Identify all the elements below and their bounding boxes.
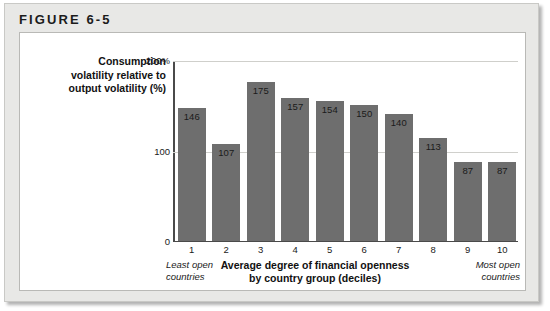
bar-series: 1461071751571541501401138787 <box>175 61 519 241</box>
annotation-right-line-1: Most open <box>440 259 520 271</box>
y-axis-tick-label: 200% <box>146 55 170 66</box>
annotation-left-line-2: countries <box>166 271 252 283</box>
bar-value-label: 140 <box>385 117 413 128</box>
bar-slot: 157 <box>281 60 309 241</box>
figure-frame: FIGURE 6-5 Consumption volatility relati… <box>4 3 539 302</box>
bar-slot: 175 <box>247 60 275 241</box>
chart-panel: Consumption volatility relative to outpu… <box>19 32 526 291</box>
bar[interactable] <box>178 108 206 240</box>
bar-value-label: 150 <box>350 108 378 119</box>
bar-value-label: 175 <box>247 85 275 96</box>
bar[interactable] <box>212 144 240 241</box>
bar-slot: 107 <box>212 60 240 241</box>
bar-slot: 87 <box>454 60 482 241</box>
annotation-most-open-countries: Most open countries <box>440 259 520 283</box>
bar-value-label: 87 <box>454 165 482 176</box>
bar-slot: 150 <box>350 60 378 241</box>
x-axis-line <box>173 241 518 243</box>
x-axis-tick-label: 4 <box>278 244 313 255</box>
x-axis-tick-label: 1 <box>175 244 210 255</box>
x-axis-tick-labels: 12345678910 <box>175 244 520 258</box>
bar[interactable] <box>247 82 275 240</box>
bar-value-label: 157 <box>281 101 309 112</box>
bar[interactable] <box>385 114 413 241</box>
annotation-right-line-2: countries <box>440 271 520 283</box>
bar-value-label: 113 <box>419 141 447 152</box>
plot-area: 1461071751571541501401138787 <box>173 61 518 242</box>
x-axis-tick-label: 3 <box>244 244 279 255</box>
bar[interactable] <box>281 98 309 240</box>
bar-value-label: 107 <box>212 147 240 158</box>
y-axis-tick-label: 0 <box>165 236 170 247</box>
x-axis-tick-label: 5 <box>313 244 348 255</box>
x-axis-tick-label: 6 <box>347 244 382 255</box>
bar-slot: 154 <box>316 60 344 241</box>
x-axis-tick-label: 8 <box>416 244 451 255</box>
bar-slot: 140 <box>385 60 413 241</box>
figure-header: FIGURE 6-5 <box>19 12 112 27</box>
y-axis-tick-labels: 200%1000 <box>128 61 170 242</box>
bar-value-label: 146 <box>178 111 206 122</box>
annotation-left-line-1: Least open <box>166 259 252 271</box>
bar-value-label: 87 <box>488 165 516 176</box>
bar-value-label: 154 <box>316 104 344 115</box>
bar-slot: 87 <box>488 60 516 241</box>
x-axis-tick-label: 2 <box>209 244 244 255</box>
y-axis-tick-label: 100 <box>154 146 170 157</box>
bar[interactable] <box>419 138 447 240</box>
bar[interactable] <box>316 101 344 240</box>
annotation-least-open-countries: Least open countries <box>166 259 252 283</box>
bar-slot: 113 <box>419 60 447 241</box>
x-axis-tick-label: 10 <box>485 244 520 255</box>
bar-slot: 146 <box>178 60 206 241</box>
bar[interactable] <box>350 105 378 241</box>
x-axis-tick-label: 9 <box>451 244 486 255</box>
x-axis-tick-label: 7 <box>382 244 417 255</box>
